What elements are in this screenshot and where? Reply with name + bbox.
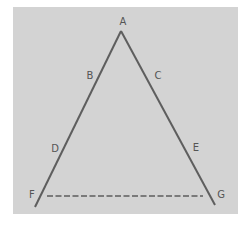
label-f: F [29, 189, 35, 200]
label-b: B [87, 70, 94, 81]
label-d: D [51, 143, 59, 154]
label-a: A [120, 16, 127, 27]
triangle-diagram: A B C D E F G [0, 0, 244, 230]
label-g: G [217, 189, 225, 200]
label-e: E [193, 142, 199, 153]
label-c: C [155, 70, 162, 81]
